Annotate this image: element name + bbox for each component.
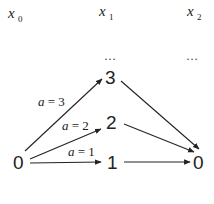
node-end-0: 0 <box>193 152 204 173</box>
edge-0-to-1 <box>30 162 101 163</box>
node-2: 2 <box>106 112 117 133</box>
edge-label-a3: a = 3 <box>38 94 65 109</box>
ellipsis-stage2: … <box>186 49 198 63</box>
svg-text:x: x <box>7 5 15 21</box>
node-start-0: 0 <box>13 152 24 173</box>
node-1: 1 <box>107 152 118 173</box>
svg-text:2: 2 <box>197 12 202 22</box>
svg-text:x: x <box>186 3 194 19</box>
ellipsis-stage1: … <box>104 49 116 63</box>
diagram-canvas: x 0 x 1 x 2 … … 0 3 2 1 0 a = 3 a = 2 a … <box>0 0 214 204</box>
stage-label-x2: x 2 <box>186 3 202 22</box>
edge-0-to-3 <box>25 79 102 151</box>
node-3: 3 <box>105 67 116 88</box>
svg-text:x: x <box>98 3 106 19</box>
stage-label-x1: x 1 <box>98 3 114 22</box>
svg-text:0: 0 <box>18 14 23 24</box>
edge-2-to-0 <box>124 124 194 152</box>
stage-label-x0: x 0 <box>7 5 23 24</box>
stage-graph-diagram: x 0 x 1 x 2 … … 0 3 2 1 0 a = 3 a = 2 a … <box>0 0 214 204</box>
edge-label-a1: a = 1 <box>68 144 95 159</box>
edge-label-a2: a = 2 <box>62 118 89 133</box>
svg-text:1: 1 <box>109 12 114 22</box>
